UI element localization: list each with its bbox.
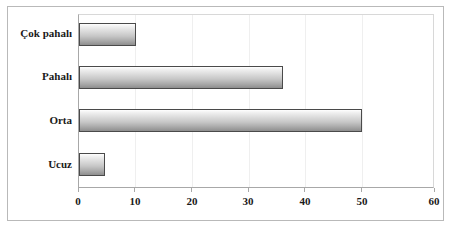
category-label-pahali: Pahalı	[0, 70, 72, 82]
xtick-mark-30	[248, 188, 249, 192]
xtick-mark-50	[361, 188, 362, 192]
gridline-30	[249, 15, 250, 187]
gridline-20	[192, 15, 193, 187]
category-label-ucuz: Ucuz	[0, 158, 72, 170]
xtick-mark-0	[78, 188, 79, 192]
bar-orta[interactable]	[79, 109, 362, 132]
xtick-mark-20	[191, 188, 192, 192]
plot-area	[78, 14, 434, 188]
bar-cok-pahali[interactable]	[79, 23, 136, 46]
xtick-label-0: 0	[63, 195, 93, 207]
gridline-50	[362, 15, 363, 187]
xtick-label-60: 60	[419, 195, 449, 207]
xtick-label-50: 50	[347, 195, 377, 207]
xtick-mark-40	[304, 188, 305, 192]
xtick-mark-60	[434, 188, 435, 192]
xtick-label-10: 10	[120, 195, 150, 207]
xtick-label-40: 40	[290, 195, 320, 207]
xtick-label-30: 30	[233, 195, 263, 207]
gridline-40	[305, 15, 306, 187]
category-label-orta: Orta	[0, 114, 72, 126]
category-label-cok-pahali: Çok pahalı	[0, 27, 72, 39]
bar-ucuz[interactable]	[79, 153, 105, 176]
xtick-mark-10	[134, 188, 135, 192]
chart-container: Çok pahalı Pahalı Orta Ucuz 0 10 20 30 4…	[0, 0, 453, 233]
xtick-label-20: 20	[177, 195, 207, 207]
bar-pahali[interactable]	[79, 66, 283, 89]
